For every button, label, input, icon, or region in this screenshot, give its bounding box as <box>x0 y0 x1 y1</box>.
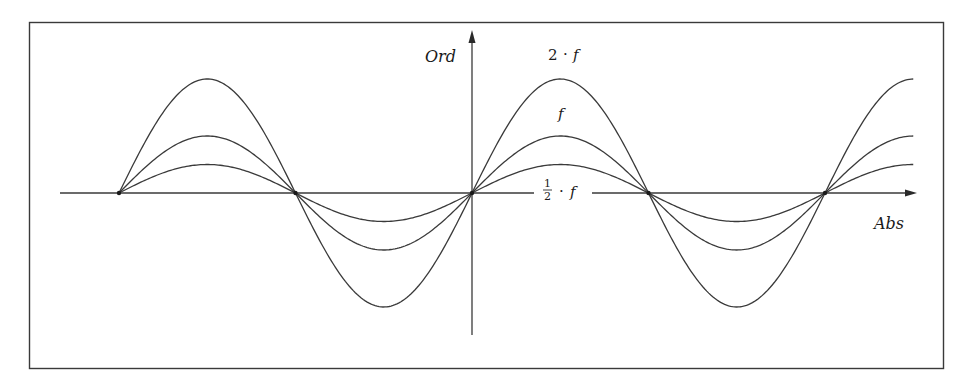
zero-crossing-dot <box>646 191 650 195</box>
label-2f-dot: · <box>563 45 568 63</box>
label-half-num: 1 <box>544 177 551 190</box>
label-2f: 2 · f <box>548 45 581 64</box>
zero-crossing-dot <box>823 191 827 195</box>
label-half-var: f <box>569 183 578 201</box>
zero-crossing-dot <box>117 191 121 195</box>
y-axis-arrow-icon <box>469 30 476 43</box>
chart-svg: Ord Abs 2 · f f 1 2 · f <box>0 0 974 383</box>
chart-frame <box>30 23 944 369</box>
chart-figure: Ord Abs 2 · f f 1 2 · f <box>0 0 974 383</box>
label-half-dot: · <box>559 182 564 200</box>
y-axis <box>469 30 476 335</box>
label-f: f <box>557 105 566 123</box>
x-axis <box>60 190 917 197</box>
zero-crossing-dot <box>470 191 474 195</box>
x-axis-arrow-icon <box>905 190 917 197</box>
label-half-f: 1 2 · f <box>543 177 578 203</box>
label-2f-var: f <box>572 46 581 64</box>
y-axis-label: Ord <box>425 47 456 66</box>
label-half-den: 2 <box>544 190 551 203</box>
zero-crossing-dot <box>293 191 297 195</box>
label-2f-coef: 2 <box>548 46 558 64</box>
x-axis-label: Abs <box>872 214 904 233</box>
